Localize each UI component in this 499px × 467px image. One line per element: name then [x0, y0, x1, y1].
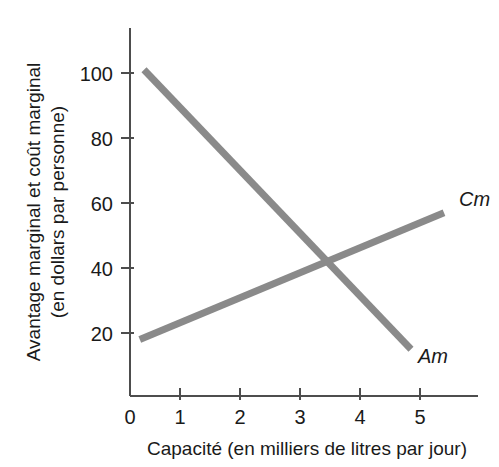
y-tick-label-20: 20: [91, 323, 113, 345]
x-tick-label-4: 4: [354, 406, 365, 428]
x-tick-label-3: 3: [294, 406, 305, 428]
y-tick-label-40: 40: [91, 258, 113, 280]
x-tick-label-0: 0: [124, 406, 135, 428]
x-tick-label-1: 1: [174, 406, 185, 428]
series-line-am: [144, 70, 411, 350]
x-axis-title: Capacité (en milliers de litres par jour…: [147, 438, 467, 459]
series-label-cm: Cm: [459, 188, 490, 210]
x-tick-label-5: 5: [414, 406, 425, 428]
x-tick-label-2: 2: [234, 406, 245, 428]
line-chart: 100 80 60 40 20 0 1 2 3 4 5 Cm Am Capaci…: [0, 0, 499, 467]
series-line-cm: [140, 213, 444, 340]
y-tick-label-80: 80: [91, 128, 113, 150]
y-axis-title-line1: Avantage marginal et coût marginal: [23, 63, 44, 362]
y-tick-label-60: 60: [91, 193, 113, 215]
figure-container: . . 100 80 60 40 20 0 1 2 3 4 5: [0, 0, 499, 467]
series-label-am: Am: [417, 345, 448, 367]
y-tick-label-100: 100: [80, 63, 113, 85]
y-axis-title-line2: (en dollars par personne): [47, 106, 68, 318]
